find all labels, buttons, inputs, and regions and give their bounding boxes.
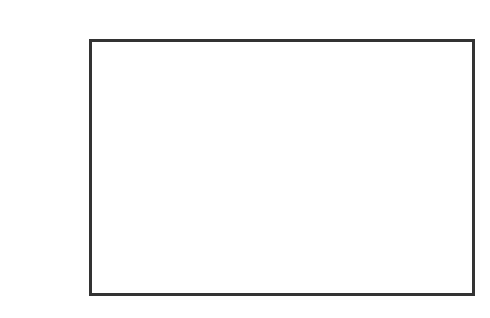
slope-field xyxy=(0,0,490,318)
